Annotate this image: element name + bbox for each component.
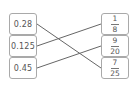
numerator: 9 (111, 37, 120, 47)
denominator: 8 (113, 25, 118, 34)
left-box-decimal-2[interactable]: 0.125 (9, 35, 37, 57)
numerator: 1 (111, 15, 120, 25)
right-box-fraction-2[interactable]: 9 20 (101, 35, 129, 57)
line-0.45-to-9/20 (37, 46, 101, 68)
numerator: 7 (111, 59, 120, 69)
line-0.125-to-1/8 (37, 24, 101, 46)
right-box-fraction-3[interactable]: 7 25 (101, 57, 129, 79)
decimal-label: 0.28 (14, 20, 33, 29)
line-0.28-to-7/25 (37, 24, 101, 68)
fraction: 9 20 (110, 37, 120, 55)
decimal-label: 0.45 (14, 64, 33, 73)
denominator: 20 (110, 47, 120, 56)
left-box-decimal-1[interactable]: 0.28 (9, 13, 37, 35)
decimal-label: 0.125 (11, 42, 35, 51)
left-box-decimal-3[interactable]: 0.45 (9, 57, 37, 79)
denominator: 25 (110, 69, 120, 78)
fraction: 1 8 (111, 15, 120, 33)
right-box-fraction-1[interactable]: 1 8 (101, 13, 129, 35)
fraction: 7 25 (110, 59, 120, 77)
